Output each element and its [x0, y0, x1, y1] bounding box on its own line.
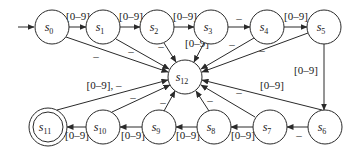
- label-s10-s11: [0–9]: [65, 129, 89, 141]
- state-s8: s8: [197, 110, 231, 144]
- state-s7: s7: [253, 110, 287, 144]
- state-s10: s10: [86, 110, 120, 144]
- label-s0-s1: [0–9]: [66, 10, 90, 22]
- state-s5: s5: [307, 10, 341, 44]
- label-s7-s12: –: [235, 86, 242, 98]
- state-s9: s9: [142, 110, 176, 144]
- label-s5-s12: –: [258, 44, 265, 56]
- label-s11-s12: [0–9], –: [87, 79, 122, 91]
- label-s9-s12: –: [159, 96, 166, 108]
- state-diagram: [0–9] [0–9] [0–9] – [0–9] [0–9] – [0–9] …: [0, 0, 360, 153]
- edge-s2-s12: [164, 43, 176, 62]
- state-s0: s0: [35, 10, 69, 44]
- label-s1-s2: [0–9]: [119, 10, 143, 22]
- state-s2: s2: [140, 10, 174, 44]
- state-s11-accepting: s11: [29, 108, 67, 146]
- state-s1: s1: [86, 10, 120, 44]
- state-s6: s6: [308, 110, 342, 144]
- label-s5-s6: [0–9]: [294, 64, 318, 76]
- state-s12: s12: [168, 60, 202, 94]
- label-s4-s5: [0–9]: [284, 10, 308, 22]
- state-s3: s3: [194, 10, 228, 44]
- label-s8-s9: [0–9]: [176, 129, 200, 141]
- label-s3-s4: –: [235, 12, 242, 24]
- label-s7-s8: [0–9]: [231, 129, 255, 141]
- label-s8-s12: –: [206, 94, 213, 106]
- label-s6-s7: –: [295, 129, 302, 141]
- label-s1-s12: –: [127, 45, 134, 57]
- label-s9-s10: [0–9]: [121, 129, 145, 141]
- state-s4: s4: [250, 10, 284, 44]
- label-s2-s3: [0–9]: [173, 10, 197, 22]
- label-s10-s12: –: [129, 91, 136, 103]
- label-s4-s12: –: [228, 38, 235, 50]
- label-s0-s12: –: [92, 50, 99, 62]
- label-s6-s12: [0–9]: [260, 79, 284, 91]
